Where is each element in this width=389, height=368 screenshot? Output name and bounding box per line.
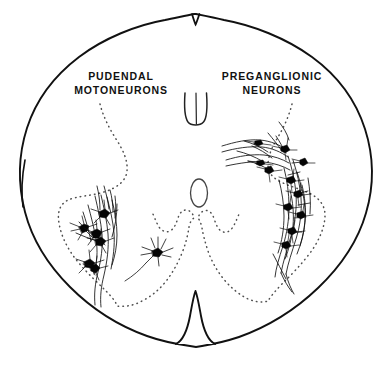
label-preganglionic-line1: PREGANGLIONIC bbox=[206, 69, 338, 83]
label-preganglionic-line2: NEURONS bbox=[206, 83, 338, 97]
spinal-cord-figure: PUDENDAL MOTONEURONS PREGANGLIONIC NEURO… bbox=[0, 0, 389, 368]
label-pudendal-motoneurons: PUDENDAL MOTONEURONS bbox=[56, 69, 186, 97]
label-pudendal-line1: PUDENDAL bbox=[56, 69, 186, 83]
label-pudendal-line2: MOTONEURONS bbox=[56, 83, 186, 97]
label-preganglionic-neurons: PREGANGLIONIC NEURONS bbox=[206, 69, 338, 97]
central-canal bbox=[191, 179, 208, 207]
spinal-cord-diagram bbox=[0, 0, 389, 368]
